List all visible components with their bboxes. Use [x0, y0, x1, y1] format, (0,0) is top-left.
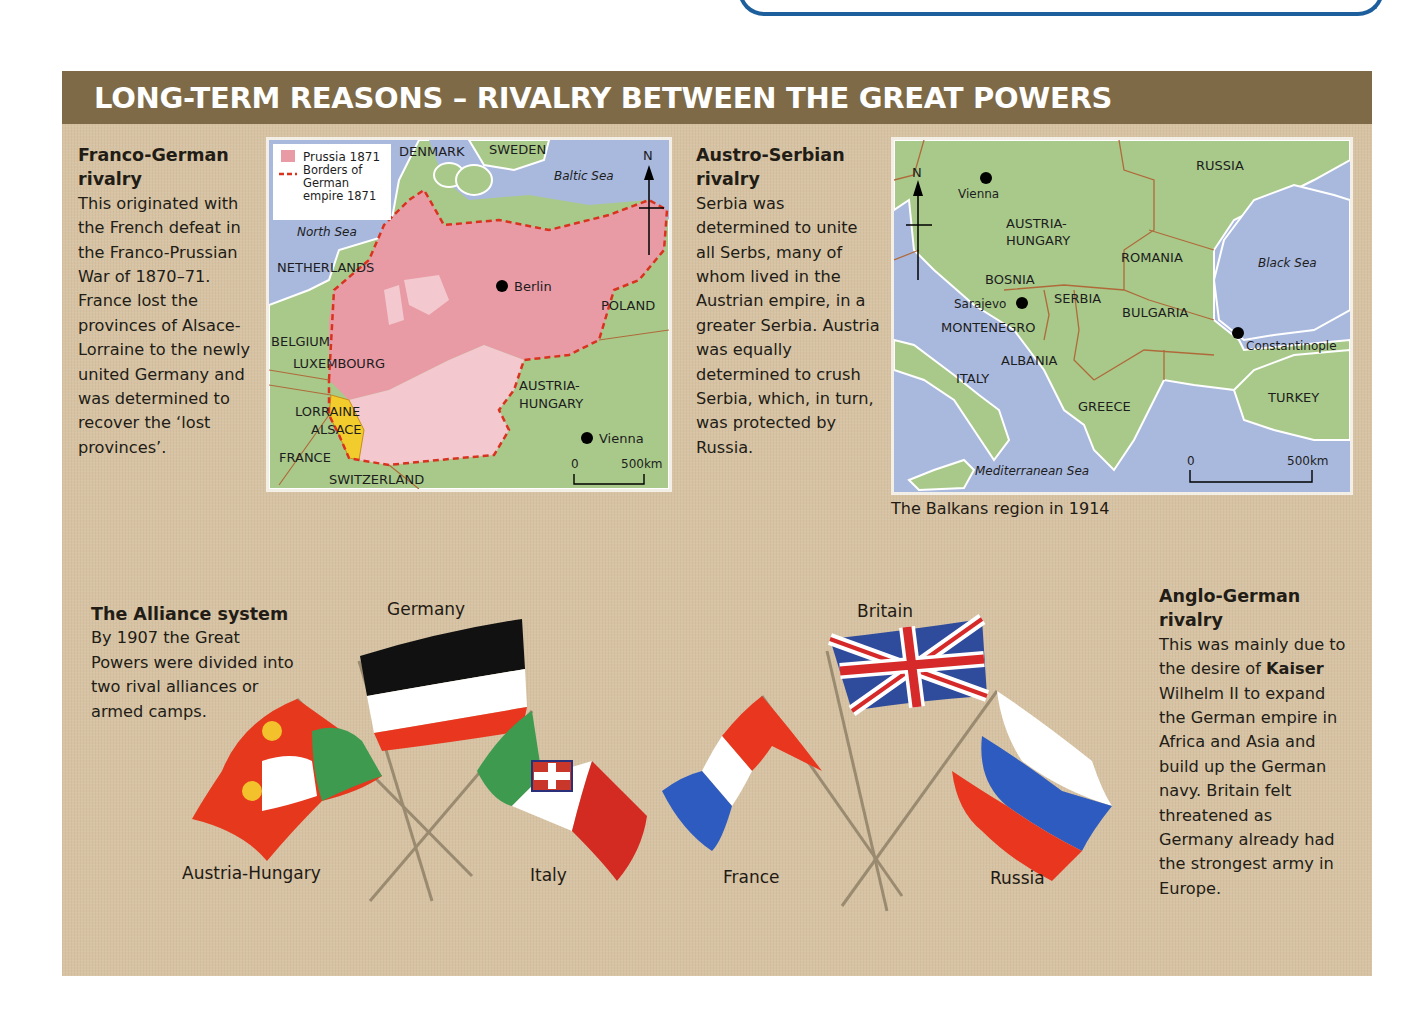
rivalry-panel: LONG-TERM REASONS – RIVALRY BETWEEN THE …	[62, 71, 1372, 976]
flag-label-germany: Germany	[387, 599, 465, 619]
flag-label-france: France	[723, 867, 780, 887]
top-callout-box	[738, 0, 1384, 16]
anglo-german-body: This was mainly due to the desire of Kai…	[1159, 633, 1349, 901]
germany-flag-icon	[360, 619, 527, 751]
anglo-german-heading: Anglo-German rivalry	[1159, 584, 1349, 633]
anglo-german-body-end: Wilhelm II to expand the German empire i…	[1159, 684, 1337, 898]
flag-label-russia: Russia	[990, 868, 1045, 888]
britain-flag-icon	[830, 619, 987, 711]
austria-hungary-flag-icon	[192, 699, 382, 861]
france-flag-icon	[662, 696, 822, 851]
flag-label-austria-hungary: Austria-Hungary	[182, 863, 321, 883]
flag-label-italy: Italy	[530, 865, 567, 885]
anglo-german-section: Anglo-German rivalry This was mainly due…	[1159, 584, 1349, 901]
kaiser-bold: Kaiser	[1266, 659, 1324, 678]
italy-flag-icon	[477, 711, 647, 881]
flag-label-britain: Britain	[857, 601, 913, 621]
